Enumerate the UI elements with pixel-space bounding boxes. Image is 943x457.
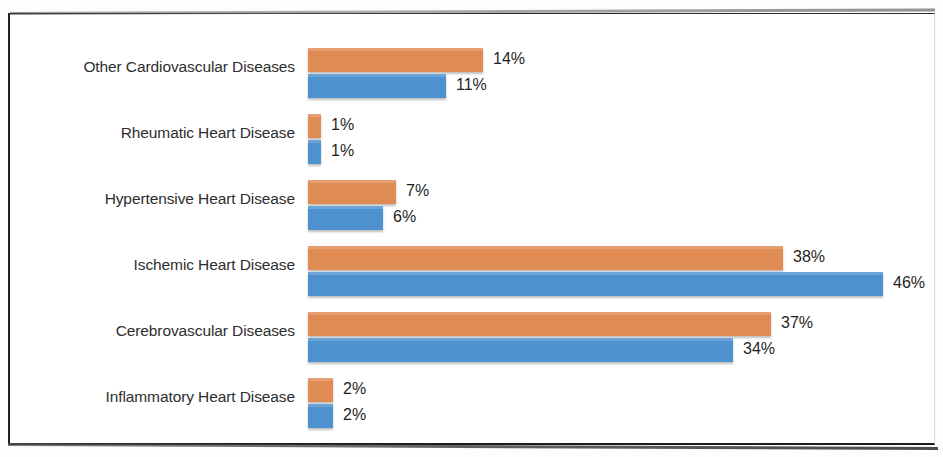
bar-value-series-1: 38% bbox=[793, 248, 825, 266]
bar-series-1[interactable] bbox=[308, 312, 771, 336]
bar-series-1[interactable] bbox=[308, 378, 333, 402]
category-label: Rheumatic Heart Disease bbox=[0, 124, 295, 142]
bar-value-series-1: 2% bbox=[343, 380, 366, 398]
bar-series-2[interactable] bbox=[308, 404, 333, 428]
bar-value-series-1: 1% bbox=[331, 116, 354, 134]
bar-series-2[interactable] bbox=[308, 338, 733, 362]
bar-series-1[interactable] bbox=[308, 180, 396, 204]
bar-value-series-2: 1% bbox=[331, 142, 354, 160]
bar-value-series-1: 37% bbox=[781, 314, 813, 332]
bar-series-1[interactable] bbox=[308, 48, 483, 72]
bar-value-series-2: 2% bbox=[343, 406, 366, 424]
bar-value-series-1: 14% bbox=[493, 50, 525, 68]
bar-value-series-2: 46% bbox=[893, 274, 925, 292]
category-label: Other Cardiovascular Diseases bbox=[0, 58, 295, 76]
bar-series-2[interactable] bbox=[308, 272, 883, 296]
bar-chart-figure: Other Cardiovascular Diseases 14% 11% Rh… bbox=[0, 0, 943, 457]
bar-series-1[interactable] bbox=[308, 114, 321, 138]
category-label: Ischemic Heart Disease bbox=[0, 256, 295, 274]
bar-series-2[interactable] bbox=[308, 206, 383, 230]
bar-value-series-2: 6% bbox=[393, 208, 416, 226]
bar-series-2[interactable] bbox=[308, 140, 321, 164]
plot-area: Other Cardiovascular Diseases 14% 11% Rh… bbox=[0, 0, 943, 457]
bar-series-1[interactable] bbox=[308, 246, 783, 270]
category-label: Hypertensive Heart Disease bbox=[0, 190, 295, 208]
bar-value-series-2: 34% bbox=[743, 340, 775, 358]
bar-series-2[interactable] bbox=[308, 74, 446, 98]
category-label: Inflammatory Heart Disease bbox=[0, 388, 295, 406]
category-label: Cerebrovascular Diseases bbox=[0, 322, 295, 340]
bar-value-series-2: 11% bbox=[456, 76, 487, 94]
bar-value-series-1: 7% bbox=[406, 182, 429, 200]
